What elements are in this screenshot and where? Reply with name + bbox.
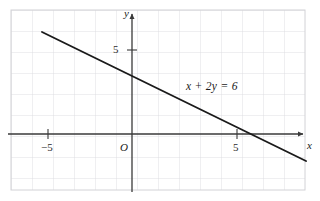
x-tick-label-5: 5 xyxy=(233,142,239,153)
graph-figure: y x 5 5 −5 O x + 2y = 6 xyxy=(0,0,320,201)
equation-annotation: x + 2y = 6 xyxy=(186,81,238,93)
plot-canvas xyxy=(0,0,320,201)
y-axis-label: y xyxy=(124,8,129,19)
grid-lines xyxy=(11,10,305,190)
y-tick-label-5: 5 xyxy=(113,44,119,55)
origin-label: O xyxy=(120,142,128,153)
x-tick-label-minus-5: −5 xyxy=(41,142,53,153)
x-axis-label: x xyxy=(307,140,312,151)
